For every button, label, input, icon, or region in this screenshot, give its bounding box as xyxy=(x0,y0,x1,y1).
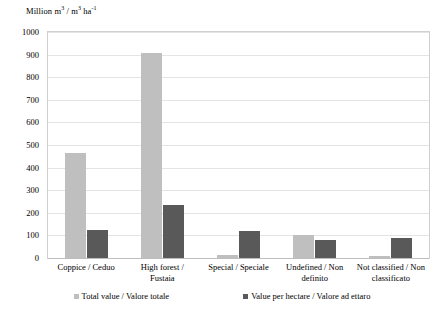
y-tick-label-400: 400 xyxy=(26,163,39,173)
bar-total-value xyxy=(293,235,314,258)
y-tick-label-200: 200 xyxy=(26,208,39,218)
y-tick-label-700: 700 xyxy=(26,95,39,105)
legend-swatch-icon-per-hectare xyxy=(243,294,248,299)
x-label-line: classificato xyxy=(347,273,435,284)
bar-value-per-hectare xyxy=(391,238,412,258)
x-label-line: Fustaia xyxy=(118,273,206,284)
bar-value-per-hectare xyxy=(315,240,336,258)
y-tick-label-100: 100 xyxy=(26,230,39,240)
y-tick-label-500: 500 xyxy=(26,140,39,150)
y-axis-title: Million m3 / m3 ha-1 xyxy=(26,6,97,16)
bar-total-value xyxy=(217,255,238,258)
legend-label-total: Total value / Valore totale xyxy=(82,291,170,301)
x-axis-label-3: Undefined / Nondefinito xyxy=(271,262,359,283)
bar-chart: Million m3 / m3 ha-1 1000900800700600500… xyxy=(0,0,444,314)
y-tick-label-600: 600 xyxy=(26,117,39,127)
y-axis-title-unit: ha xyxy=(81,6,91,16)
bar-group xyxy=(353,32,429,258)
bar-total-value xyxy=(65,153,86,258)
chart-legend: Total value / Valore totale Value per he… xyxy=(0,291,444,307)
legend-swatch-icon-total xyxy=(74,294,79,299)
bar-group xyxy=(277,32,353,258)
x-label-line: Undefined / Non xyxy=(271,262,359,273)
bar-value-per-hectare xyxy=(87,230,108,258)
bars-layer xyxy=(48,32,429,258)
legend-item-value-per-hectare: Value per hectare / Valore ad ettaro xyxy=(243,291,370,301)
y-axis-title-text: Million m xyxy=(26,6,61,16)
bar-total-value xyxy=(369,256,390,258)
bar-group xyxy=(48,32,124,258)
y-axis-title-sup-3: -1 xyxy=(91,5,96,11)
x-label-line: Coppice / Ceduo xyxy=(42,262,130,273)
y-axis-tick-labels: 10009008007006005004003002001000 xyxy=(0,31,43,259)
y-tick-label-900: 900 xyxy=(26,50,39,60)
bar-total-value xyxy=(141,53,162,258)
gridline-0 xyxy=(48,258,429,259)
legend-label-per-hectare: Value per hectare / Valore ad ettaro xyxy=(251,291,370,301)
y-tick-label-0: 0 xyxy=(35,253,39,263)
y-tick-label-800: 800 xyxy=(26,72,39,82)
x-label-line: definito xyxy=(271,273,359,284)
x-label-line: Special / Speciale xyxy=(194,262,282,273)
y-tick-label-300: 300 xyxy=(26,185,39,195)
bar-value-per-hectare xyxy=(163,205,184,258)
x-axis-label-1: High forest /Fustaia xyxy=(118,262,206,283)
x-axis-label-0: Coppice / Ceduo xyxy=(42,262,130,273)
y-tick-label-1000: 1000 xyxy=(22,27,39,37)
y-axis-title-mid: / m xyxy=(64,6,78,16)
bar-group xyxy=(124,32,200,258)
x-axis-label-2: Special / Speciale xyxy=(194,262,282,273)
x-axis-label-4: Not classified / Nonclassificato xyxy=(347,262,435,283)
legend-item-total-value: Total value / Valore totale xyxy=(74,291,170,301)
bar-group xyxy=(200,32,276,258)
x-label-line: Not classified / Non xyxy=(347,262,435,273)
x-axis-category-labels: Coppice / CeduoHigh forest /FustaiaSpeci… xyxy=(48,262,429,292)
x-label-line: High forest / xyxy=(118,262,206,273)
bar-value-per-hectare xyxy=(239,231,260,258)
